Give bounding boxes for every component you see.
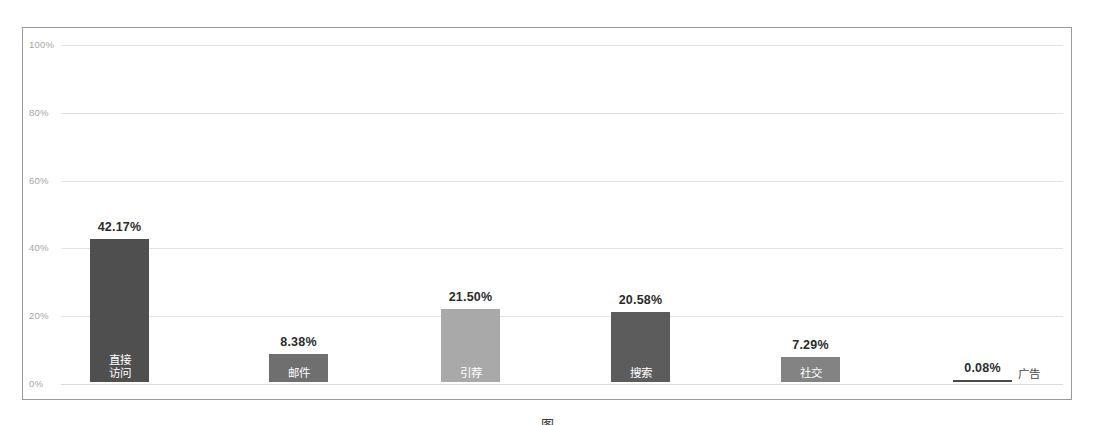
- bar-引荐[interactable]: 21.50%引荐: [441, 309, 500, 382]
- chart-frame: 0%20%40%60%80%100% 42.17%直接访问8.38%邮件21.5…: [22, 27, 1072, 400]
- y-tick-label: 0%: [29, 379, 65, 389]
- y-tick-label: 40%: [29, 243, 65, 253]
- bar-category-label: 邮件: [269, 367, 328, 380]
- gridline-100pct: [61, 45, 1063, 46]
- bar-value-label: 0.08%: [964, 361, 1000, 375]
- bar-category-label: 直接访问: [90, 354, 149, 380]
- bar-value-label: 42.17%: [98, 220, 142, 234]
- gridline-0pct: [61, 384, 1063, 385]
- figure-caption-fragment: 图: [0, 414, 1095, 425]
- bar-广告[interactable]: 0.08%广告: [953, 380, 1012, 383]
- y-tick-label: 80%: [29, 108, 65, 118]
- bar-value-label: 20.58%: [619, 293, 663, 307]
- bar-value-label: 21.50%: [449, 290, 493, 304]
- y-tick-label: 100%: [29, 40, 65, 50]
- bar-category-label: 广告: [1018, 368, 1040, 381]
- bar-value-label: 8.38%: [280, 335, 316, 349]
- gridline-80pct: [61, 113, 1063, 114]
- bar-邮件[interactable]: 8.38%邮件: [269, 354, 328, 382]
- bar-value-label: 7.29%: [792, 338, 828, 352]
- plot-area: 0%20%40%60%80%100% 42.17%直接访问8.38%邮件21.5…: [23, 28, 1071, 399]
- bar-rect[interactable]: [953, 380, 1012, 383]
- bar-搜索[interactable]: 20.58%搜索: [611, 312, 670, 382]
- bar-社交[interactable]: 7.29%社交: [781, 357, 840, 382]
- bar-category-label: 社交: [781, 367, 840, 380]
- bar-category-label: 搜索: [611, 367, 670, 380]
- bar-category-label: 引荐: [441, 367, 500, 380]
- y-tick-label: 20%: [29, 311, 65, 321]
- y-tick-label: 60%: [29, 176, 65, 186]
- gridline-40pct: [61, 248, 1063, 249]
- bar-直接访问[interactable]: 42.17%直接访问: [90, 239, 149, 382]
- gridline-20pct: [61, 316, 1063, 317]
- gridline-60pct: [61, 181, 1063, 182]
